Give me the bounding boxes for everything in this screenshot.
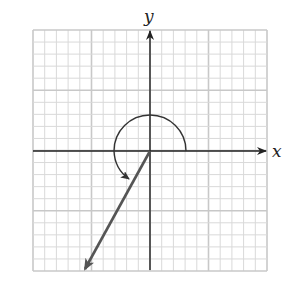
coordinate-plane-figure: x y xyxy=(0,0,295,290)
x-axis-label: x xyxy=(272,141,282,161)
y-axis-label: y xyxy=(143,6,154,26)
